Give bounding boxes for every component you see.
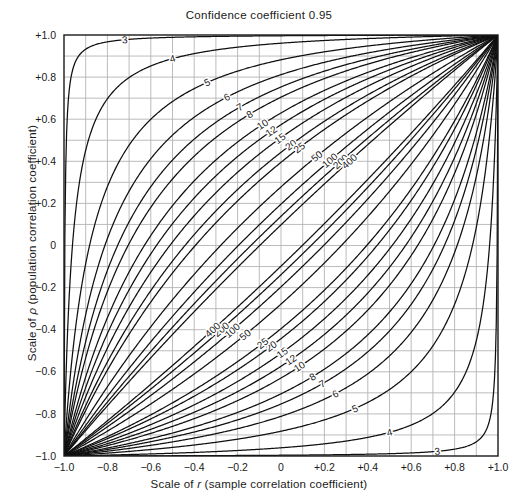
svg-text:4: 4 [168, 53, 177, 65]
svg-text:6: 6 [330, 387, 340, 400]
y-tick-label: −1.0 [35, 450, 56, 462]
svg-text:4: 4 [385, 426, 394, 438]
y-axis-title-prefix: Scale of [26, 315, 38, 362]
x-tick-label: +0.2 [314, 461, 335, 473]
x-tick-label: −0.4 [184, 461, 205, 473]
x-tick-label: +0.8 [444, 461, 465, 473]
x-tick-label: −0.6 [140, 461, 161, 473]
y-tick-label: +0.6 [35, 113, 56, 125]
x-tick-label: −0.2 [227, 461, 248, 473]
svg-text:5: 5 [350, 402, 360, 414]
x-tick-label: −0.8 [97, 461, 118, 473]
x-axis-title-prefix: Scale of [151, 478, 198, 490]
curve-label: 44 [168, 53, 177, 65]
x-tick-label: +1.0 [488, 461, 509, 473]
x-tick-label: −1.0 [54, 461, 75, 473]
x-tick-label: +0.6 [401, 461, 422, 473]
curve-label: 88 [244, 108, 255, 121]
y-axis-title-symbol: ρ [26, 308, 38, 315]
svg-text:6: 6 [222, 91, 232, 104]
y-tick-label: +0.8 [35, 71, 56, 83]
y-tick-label: +1.0 [35, 29, 56, 41]
y-axis-title: Scale of ρ (population correlation coeff… [26, 113, 38, 373]
y-tick-label: −0.2 [35, 281, 56, 293]
x-axis-title: Scale of r (sample correlation coefficie… [0, 478, 518, 490]
x-tick-label: +0.4 [357, 461, 378, 473]
y-tick-label: +0.2 [35, 197, 56, 209]
svg-text:5: 5 [202, 76, 212, 88]
curve-label: 66 [330, 387, 340, 400]
curve-label: 66 [222, 91, 232, 104]
curve-label: 55 [350, 402, 360, 414]
y-tick-label: −0.8 [35, 408, 56, 420]
y-tick-label: −0.4 [35, 323, 56, 335]
curve-label: 55 [202, 76, 212, 88]
svg-text:7: 7 [317, 377, 328, 390]
curve-label: 77 [317, 377, 328, 390]
x-tick-label: 0 [278, 461, 284, 473]
y-tick-label: 0 [50, 239, 56, 251]
y-tick-label: −0.6 [35, 365, 56, 377]
y-tick-label: +0.4 [35, 155, 56, 167]
chart-title: Confidence coefficient 0.95 [0, 9, 518, 21]
curve-label: 44 [385, 426, 394, 438]
confidence-belt-figure: Confidence coefficient 0.95 334455667788… [0, 0, 518, 504]
x-axis-title-suffix: (sample correlation coefficient) [201, 478, 367, 490]
y-axis-title-suffix: (population correlation coefficient) [26, 125, 38, 308]
svg-text:8: 8 [244, 108, 255, 121]
grid-lines [64, 35, 498, 456]
plot-canvas: 3344556677881010121215152020252550501001… [0, 0, 518, 504]
